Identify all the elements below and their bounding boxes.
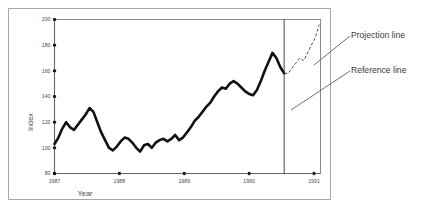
y-tick-mark — [53, 44, 56, 47]
reference-callout-label: Reference line — [351, 65, 407, 75]
y-tick-label: 180 — [42, 42, 51, 48]
y-tick-label: 200 — [42, 16, 51, 22]
y-tick-mark — [53, 95, 56, 98]
x-tick-mark — [53, 172, 56, 175]
x-tick-mark — [183, 172, 186, 175]
y-tick-mark — [53, 70, 56, 73]
x-tick-mark — [313, 172, 316, 175]
y-tick-mark — [53, 147, 56, 150]
projection-callout-label: Projection line — [351, 30, 405, 40]
chart-svg: 80100120140160180200 1987198819891990199… — [0, 0, 435, 208]
x-axis-title: Year — [78, 189, 93, 198]
x-tick-mark — [118, 172, 121, 175]
y-tick-label: 160 — [42, 68, 51, 74]
y-tick-mark — [53, 121, 56, 124]
y-tick-mark — [53, 18, 56, 21]
x-tick-label: 1990 — [243, 178, 255, 184]
x-tick-label: 1988 — [114, 178, 126, 184]
x-tick-mark — [248, 172, 251, 175]
y-tick-label: 120 — [42, 119, 51, 125]
chart-figure: 80100120140160180200 1987198819891990199… — [0, 0, 435, 208]
x-tick-label: 1987 — [49, 178, 61, 184]
y-axis-title: Index — [26, 113, 35, 131]
y-tick-label: 100 — [42, 145, 51, 151]
x-tick-label: 1989 — [178, 178, 190, 184]
x-tick-label: 1991 — [308, 178, 320, 184]
y-tick-label: 140 — [42, 93, 51, 99]
y-tick-label: 80 — [45, 170, 51, 176]
